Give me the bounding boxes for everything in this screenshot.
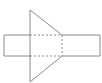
left-strip — [4, 35, 30, 56]
geometry-net-diagram — [0, 0, 102, 83]
triangle-lower-edge — [30, 56, 62, 82]
triangle-upper-edge — [30, 10, 62, 35]
right-strip — [62, 35, 100, 56]
